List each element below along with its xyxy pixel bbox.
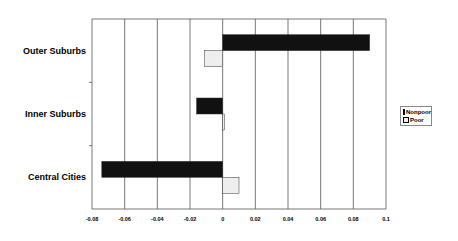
nonpoor-swatch-icon [403,109,405,115]
bar-chart: -0.08-0.06-0.04-0.0200.020.040.060.080.1… [0,0,458,241]
x-tick-label: 0.02 [250,216,261,222]
bar-poor [223,177,239,193]
poor-swatch-icon [403,117,409,123]
bar-poor [223,114,225,130]
bar-nonpoor [223,35,370,51]
x-tick-label: -0.02 [184,216,197,222]
category-label: Outer Suburbs [23,46,86,56]
legend: Nonpoor Poor [400,106,432,126]
x-tick-label: -0.06 [118,216,131,222]
x-tick-label: 0.04 [283,216,295,222]
legend-item-nonpoor: Nonpoor [403,108,429,116]
x-tick-label: -0.04 [151,216,164,222]
x-tick-label: 0.06 [315,216,326,222]
category-label: Inner Suburbs [25,109,86,119]
bar-poor [205,51,223,67]
bar-nonpoor [102,161,223,177]
category-label: Central Cities [28,172,86,182]
legend-item-poor: Poor [403,116,429,124]
bar-nonpoor [197,98,223,114]
x-tick-label: -0.08 [86,216,99,222]
legend-label: Poor [410,117,424,123]
x-tick-label: 0 [221,216,224,222]
x-tick-label: 0.1 [382,216,390,222]
legend-label: Nonpoor [406,109,431,115]
x-tick-label: 0.08 [348,216,359,222]
